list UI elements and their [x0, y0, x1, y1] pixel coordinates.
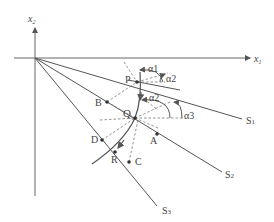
line-s1	[35, 58, 242, 119]
point-c	[127, 160, 131, 164]
label-s2: S2	[225, 169, 235, 180]
point-q	[133, 116, 137, 120]
dash-d-to-q	[102, 118, 135, 140]
label-point-q: Q	[123, 107, 131, 119]
label-point-a: A	[150, 135, 158, 146]
label-point-b: B	[95, 97, 102, 108]
dash-b-to-p	[107, 82, 137, 102]
point-p	[135, 80, 139, 84]
x2-axis-label: x2	[27, 13, 35, 25]
label-point-d: D	[91, 134, 98, 145]
angle-arc-alpha3	[174, 102, 182, 118]
label-s1: S1	[246, 115, 256, 126]
label-alpha1: α1	[148, 63, 158, 74]
label-point-p: P	[125, 74, 131, 85]
label-alpha2-top: α2	[166, 73, 176, 84]
dash-q-diag-up	[135, 101, 172, 118]
label-alpha3: α3	[184, 110, 194, 121]
label-point-r: R	[111, 154, 118, 165]
label-alpha2-mid: α2	[149, 92, 159, 103]
label-s3: S3	[162, 205, 172, 216]
point-b	[105, 100, 109, 104]
line-s3	[35, 58, 157, 206]
x1-axis-label: x1	[253, 53, 261, 65]
geometry-diagram: x1 x2 S1 S2 S3 α1 α2 α2 α3 P Q R A B C D	[0, 0, 274, 222]
point-d	[100, 138, 104, 142]
label-point-c: C	[135, 156, 142, 167]
